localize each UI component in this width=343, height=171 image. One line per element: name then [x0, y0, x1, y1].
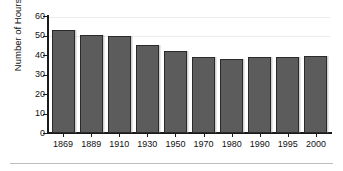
x-axis-tick-label-1889: 1889: [76, 139, 106, 149]
x-axis-tick: [260, 133, 261, 137]
x-axis-tick-label-1990: 1990: [245, 139, 275, 149]
bar-2000: [304, 56, 327, 133]
x-axis-tick: [119, 133, 120, 137]
bars-layer: [49, 16, 330, 133]
x-axis-tick-label-1995: 1995: [273, 139, 303, 149]
x-axis-tick-label-2000: 2000: [301, 139, 331, 149]
bar-1970: [192, 57, 215, 133]
x-axis-tick: [316, 133, 317, 137]
x-axis-tick-label-1910: 1910: [104, 139, 134, 149]
bar-1980: [220, 59, 243, 133]
bar-1990: [248, 57, 271, 133]
y-axis-tick-label: 20: [5, 90, 45, 99]
y-axis-tick-label: 40: [5, 51, 45, 60]
x-axis-tick-label-1930: 1930: [132, 139, 162, 149]
y-axis-tick-label: 10: [5, 109, 45, 118]
bar-1995: [276, 57, 299, 133]
bar-1930: [136, 45, 159, 133]
x-axis-tick-label-1970: 1970: [189, 139, 219, 149]
x-axis-tick: [175, 133, 176, 137]
x-axis-tick-label-1980: 1980: [217, 139, 247, 149]
bar-1869: [52, 30, 75, 133]
x-axis-tick-label-1950: 1950: [160, 139, 190, 149]
x-axis-tick: [91, 133, 92, 137]
x-axis-tick: [147, 133, 148, 137]
x-axis-tick: [288, 133, 289, 137]
bar-1950: [164, 51, 187, 133]
y-axis-tick-label: 50: [5, 31, 45, 40]
x-axis-tick: [63, 133, 64, 137]
y-axis-tick-label: 30: [5, 70, 45, 79]
y-axis-tick-label: 0: [5, 129, 45, 138]
footer-divider: [10, 163, 333, 164]
bar-chart-figure: Number of Hours 0102030405060 1869188919…: [0, 0, 343, 171]
x-axis-tick-label-1869: 1869: [48, 139, 78, 149]
bar-1910: [108, 36, 131, 133]
x-axis-tick: [204, 133, 205, 137]
y-axis-tick-label: 60: [5, 12, 45, 21]
bar-1889: [80, 35, 103, 133]
x-axis-tick: [232, 133, 233, 137]
